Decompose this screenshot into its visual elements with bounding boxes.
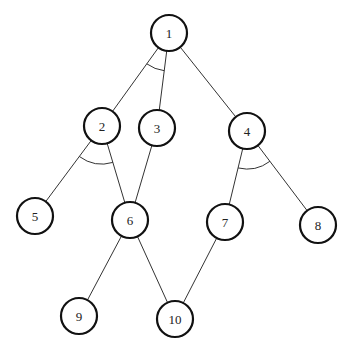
node-label: 8 bbox=[315, 218, 322, 233]
node-label: 4 bbox=[244, 124, 251, 139]
node-10: 10 bbox=[157, 301, 193, 337]
edge-4-7 bbox=[229, 148, 243, 204]
edge-3-6 bbox=[135, 145, 152, 202]
node-label: 1 bbox=[166, 26, 173, 41]
node-9: 9 bbox=[61, 298, 97, 334]
edge-6-10 bbox=[137, 236, 167, 302]
node-4: 4 bbox=[229, 113, 265, 149]
node-label: 10 bbox=[169, 312, 182, 327]
edge-1-4 bbox=[180, 47, 236, 117]
and-arc-2 bbox=[79, 156, 113, 164]
edge-2-6 bbox=[107, 143, 125, 202]
node-8: 8 bbox=[300, 207, 336, 243]
node-label: 5 bbox=[32, 209, 39, 224]
node-label: 2 bbox=[99, 119, 106, 134]
and-arc-1 bbox=[147, 64, 164, 71]
edge-1-3 bbox=[159, 51, 166, 110]
edges bbox=[46, 47, 307, 303]
edge-4-8 bbox=[258, 145, 307, 210]
node-label: 9 bbox=[76, 309, 83, 324]
node-label: 6 bbox=[127, 213, 134, 228]
node-label: 3 bbox=[154, 121, 161, 136]
node-1: 1 bbox=[151, 15, 187, 51]
edge-1-2 bbox=[113, 48, 159, 112]
node-5: 5 bbox=[17, 198, 53, 234]
edge-7-10 bbox=[183, 238, 217, 303]
and-arc-4 bbox=[238, 161, 270, 169]
node-3: 3 bbox=[139, 110, 175, 146]
node-7: 7 bbox=[207, 204, 243, 240]
node-6: 6 bbox=[112, 202, 148, 238]
node-2: 2 bbox=[84, 108, 120, 144]
and-or-graph: 12345678910 bbox=[0, 0, 351, 356]
edge-2-5 bbox=[46, 140, 92, 201]
node-label: 7 bbox=[222, 215, 229, 230]
edge-6-9 bbox=[87, 236, 121, 300]
